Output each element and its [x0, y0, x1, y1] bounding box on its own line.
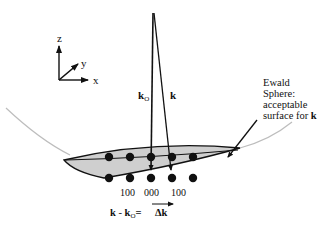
ewald-caption-line1: Ewald: [263, 77, 317, 88]
ewald-caption-line4: surface for k: [263, 110, 317, 121]
lattice-point: [189, 174, 197, 182]
scattering-equation: k - kO= Δk: [110, 204, 173, 220]
lattice-point: [147, 174, 155, 182]
y-axis-label: y: [81, 57, 87, 69]
x-axis-label: x: [93, 74, 99, 86]
coordinate-axes: z y x: [57, 32, 99, 86]
lattice-point: [126, 174, 134, 182]
k0-label: kO: [138, 89, 149, 103]
index-label-left: 100: [120, 187, 135, 198]
index-label-right: 100: [171, 187, 186, 198]
k-label: k: [170, 89, 177, 101]
y-axis-arrow: [59, 64, 78, 80]
lattice-point: [147, 153, 155, 161]
ewald-sphere-caption: Ewald Sphere: acceptable surface for k: [263, 77, 317, 121]
lattice-point: [126, 153, 134, 161]
lattice-point: [168, 174, 176, 182]
lattice-point: [189, 153, 197, 161]
index-label-center: 000: [144, 187, 159, 198]
lattice-point: [105, 153, 113, 161]
ewald-pointer-arrow: [228, 120, 257, 157]
ewald-caption-line2: Sphere:: [263, 88, 317, 99]
svg-text:k - kO=: k - kO=: [110, 207, 142, 220]
ewald-caption-line3: acceptable: [263, 99, 317, 110]
lattice-point: [168, 153, 176, 161]
lattice-point: [105, 174, 113, 182]
z-axis-label: z: [57, 32, 62, 44]
delta-k-label: Δk: [155, 207, 168, 218]
